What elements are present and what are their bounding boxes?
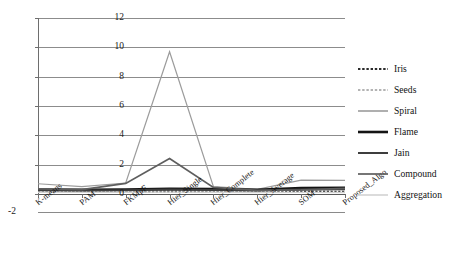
legend-item-seeds[interactable]: Seeds xyxy=(358,79,466,100)
legend-label: Iris xyxy=(394,64,407,74)
chart-figure: 024681012 -2 K-meansPAMFKMpFHier_SingleH… xyxy=(0,0,468,273)
legend-swatch-icon xyxy=(358,64,388,74)
legend-label: Jain xyxy=(394,148,409,158)
legend-swatch-icon xyxy=(358,169,388,179)
legend-swatch-icon xyxy=(358,190,388,200)
legend-label: Aggregation xyxy=(394,190,442,200)
legend-item-iris[interactable]: Iris xyxy=(358,58,466,79)
legend-label: Spiral xyxy=(394,106,417,116)
legend-label: Seeds xyxy=(394,85,416,95)
legend-label: Compound xyxy=(394,169,437,179)
legend-swatch-icon xyxy=(358,127,388,137)
legend-swatch-icon xyxy=(358,85,388,95)
y-tick-label: 2 xyxy=(84,160,124,170)
y-tick-label: 8 xyxy=(84,72,124,82)
legend-swatch-icon xyxy=(358,148,388,158)
minus-two-label: -2 xyxy=(8,206,16,216)
legend-swatch-icon xyxy=(358,106,388,116)
minus-two-gridline xyxy=(38,212,345,213)
legend-label: Flame xyxy=(394,127,418,137)
y-tick-label: 12 xyxy=(84,13,124,23)
legend-item-flame[interactable]: Flame xyxy=(358,121,466,142)
legend-item-spiral[interactable]: Spiral xyxy=(358,100,466,121)
y-tick-label: 4 xyxy=(84,130,124,140)
legend-item-jain[interactable]: Jain xyxy=(358,142,466,163)
chart-legend: IrisSeedsSpiralFlameJainCompoundAggregat… xyxy=(358,58,466,205)
legend-item-aggregation[interactable]: Aggregation xyxy=(358,184,466,205)
legend-item-compound[interactable]: Compound xyxy=(358,163,466,184)
y-tick-label: 10 xyxy=(84,42,124,52)
y-tick-label: 6 xyxy=(84,101,124,111)
